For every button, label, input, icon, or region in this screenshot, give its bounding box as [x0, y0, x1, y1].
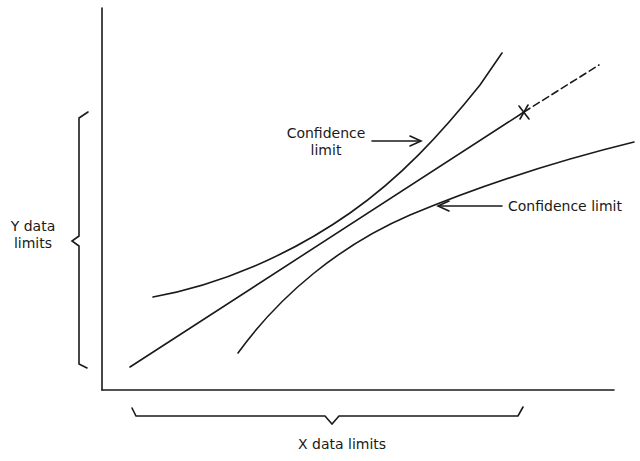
- x-data-limits-brace: [132, 407, 523, 424]
- upper-confidence-label-line1: Confidence: [285, 125, 367, 142]
- upper-confidence-label: Confidence limit: [285, 125, 367, 159]
- upper-confidence-curve: [153, 53, 502, 297]
- regression-diagram: [0, 0, 640, 461]
- y-data-limits-brace: [72, 112, 88, 368]
- y-data-limits-label: Y data limits: [6, 218, 60, 252]
- y-label-line2: limits: [6, 235, 60, 252]
- x-data-limits-label: X data limits: [298, 436, 386, 453]
- upper-label-arrow: [372, 136, 421, 146]
- extrapolation-line: [524, 65, 599, 112]
- lower-confidence-curve: [238, 142, 634, 353]
- lower-label-arrow: [438, 201, 502, 211]
- endpoint-x-marker: [519, 105, 529, 119]
- lower-confidence-label: Confidence limit: [508, 198, 622, 215]
- upper-confidence-label-line2: limit: [285, 142, 367, 159]
- y-label-line1: Y data: [6, 218, 60, 235]
